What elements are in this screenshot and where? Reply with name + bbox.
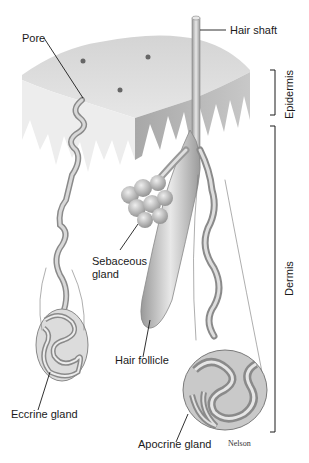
eccrine-gland-coil <box>36 309 88 381</box>
apocrine-gland-coil <box>183 350 267 430</box>
epidermis-bracket <box>270 70 275 115</box>
dermis-bracket <box>270 126 275 432</box>
pore-dot <box>118 88 123 93</box>
dermis-label: Dermis <box>283 261 295 296</box>
sebaceous-gland-label-line1: Sebaceous <box>92 255 147 267</box>
pore-dot <box>81 59 86 64</box>
skin-diagram: Pore Hair shaft Sebaceous gland Hair fol… <box>0 0 309 463</box>
hair-follicle-label: Hair follicle <box>115 354 169 366</box>
sebaceous-gland-label-line2: gland <box>92 268 119 280</box>
eccrine-leader-line <box>38 372 50 410</box>
epidermis-block <box>22 35 250 172</box>
apocrine-gland-label: Apocrine gland <box>138 438 211 450</box>
sebaceous-gland-cluster <box>121 175 173 228</box>
sebaceous-leader-line <box>120 224 138 250</box>
epidermis-label: Epidermis <box>283 70 295 119</box>
layer-brackets <box>270 70 275 432</box>
pore-label: Pore <box>22 32 45 44</box>
hair-shaft-label: Hair shaft <box>230 24 277 36</box>
illustrator-credit: Nelson <box>228 439 251 448</box>
eccrine-gland-label: Eccrine gland <box>11 408 78 420</box>
pore-dot <box>146 55 151 60</box>
